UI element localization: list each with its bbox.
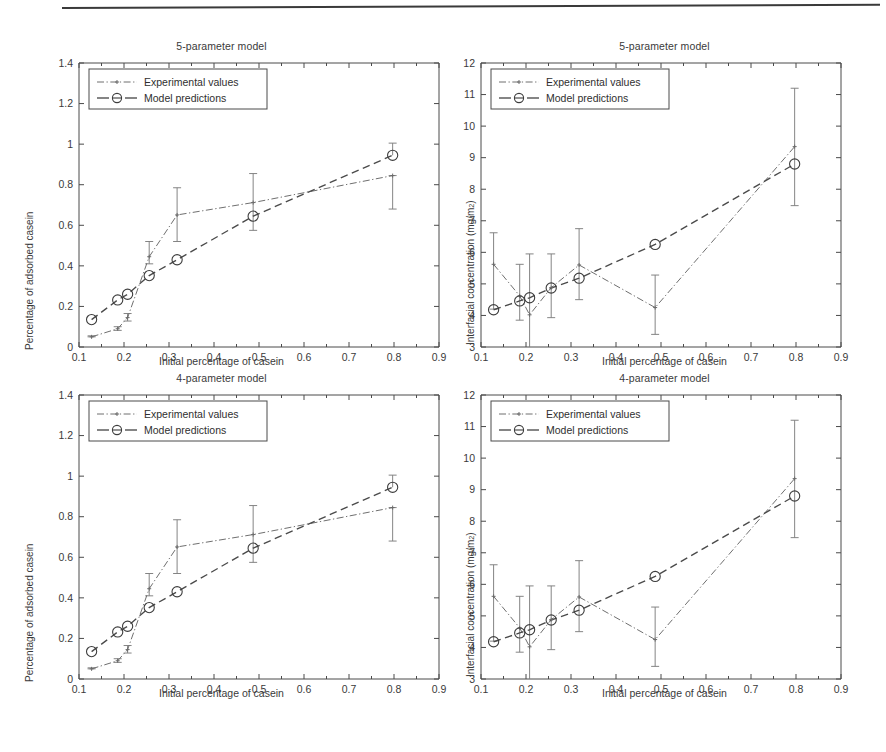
panel-bottom-left: 4-parameter model Percentage of adsorbed…	[0, 372, 443, 708]
y-tick-label: 3	[469, 341, 475, 353]
y-tick-label: 8	[469, 515, 475, 527]
error-bar	[526, 254, 534, 347]
y-tick-label: 6	[469, 246, 475, 258]
y-tick-label: 0	[67, 673, 73, 685]
y-tick-label: 0.6	[58, 219, 73, 231]
plot-area: 0.10.20.30.40.50.60.70.80.93456789101112…	[481, 395, 841, 679]
y-tick-label: 9	[469, 151, 475, 163]
experimental-data-point	[175, 213, 179, 217]
panel-top-left: 5-parameter model Percentage of adsorbed…	[0, 40, 443, 376]
model-data-point	[113, 295, 123, 305]
model-data-point	[123, 289, 133, 299]
y-tick-label: 5	[469, 610, 475, 622]
y-tick-label: 0.8	[58, 178, 73, 190]
legend-label-experimental: Experimental values	[546, 76, 641, 88]
experimental-data-point	[528, 313, 532, 317]
y-tick-label: 6	[469, 578, 475, 590]
panel-top-right: 5-parameter model Interfacial concentrat…	[443, 40, 886, 376]
experimental-data-point	[577, 595, 581, 599]
x-axis-label: Initial percentage of casein	[0, 355, 443, 367]
y-axis-label-text: Percentage of adsorbed casein	[24, 212, 35, 350]
experimental-data-point	[577, 263, 581, 267]
panel-title: 4-parameter model	[443, 372, 886, 384]
legend: Experimental valuesModel predictions	[89, 69, 267, 109]
model-series-line	[92, 155, 393, 319]
experimental-data-point	[175, 545, 179, 549]
y-tick-label: 1.2	[58, 429, 73, 441]
error-bar	[526, 586, 534, 679]
y-axis-label-superscript: 2	[467, 536, 476, 540]
y-axis-label-paren: )	[465, 532, 476, 535]
experimental-data-point	[653, 306, 657, 310]
legend-label-model: Model predictions	[546, 92, 628, 104]
legend-label-model: Model predictions	[144, 424, 226, 436]
y-tick-label: 10	[463, 452, 475, 464]
error-bar	[651, 275, 659, 334]
panel-title: 4-parameter model	[0, 372, 443, 384]
y-tick-label: 5	[469, 278, 475, 290]
x-axis-label: Initial percentage of casein	[443, 687, 886, 699]
error-bar	[389, 176, 397, 209]
y-tick-label: 0.4	[58, 592, 73, 604]
plot-area: 0.10.20.30.40.50.60.70.80.93456789101112…	[481, 63, 841, 347]
y-tick-label: 4	[469, 309, 475, 321]
experimental-series-line	[92, 508, 393, 669]
y-axis-label-superscript: 2	[467, 204, 476, 208]
y-tick-label: 0.2	[58, 300, 73, 312]
y-tick-label: 9	[469, 483, 475, 495]
page-header-rule	[62, 4, 880, 9]
y-tick-label: 1.4	[58, 57, 73, 69]
legend-label-model: Model predictions	[546, 424, 628, 436]
error-bar	[389, 143, 397, 155]
error-bar	[490, 565, 498, 641]
model-data-point	[87, 647, 97, 657]
y-axis-label: Percentage of adsorbed casein	[24, 212, 35, 350]
y-tick-label: 0.2	[58, 632, 73, 644]
model-data-point	[172, 255, 182, 265]
legend-label-model: Model predictions	[144, 92, 226, 104]
experimental-series-line	[494, 147, 795, 315]
model-data-point	[123, 621, 133, 631]
legend-label-experimental: Experimental values	[144, 76, 239, 88]
model-series-line	[92, 487, 393, 651]
y-tick-label: 11	[464, 420, 475, 432]
y-tick-label: 0.4	[58, 260, 73, 272]
experimental-series-line	[494, 479, 795, 647]
legend-label-experimental: Experimental values	[144, 408, 239, 420]
error-bar	[490, 233, 498, 309]
legend: Experimental valuesModel predictions	[491, 401, 669, 441]
legend: Experimental valuesModel predictions	[491, 69, 669, 109]
model-data-point	[113, 627, 123, 637]
y-axis-label: Percentage of adsorbed casein	[24, 544, 35, 682]
model-data-point	[172, 587, 182, 597]
experimental-data-point	[251, 201, 255, 205]
experimental-series-line	[92, 176, 393, 337]
model-series-line	[494, 164, 795, 310]
plot-area: 0.10.20.30.40.50.60.70.80.900.20.40.60.8…	[79, 63, 439, 347]
y-tick-label: 7	[469, 214, 475, 226]
y-tick-label: 11	[464, 88, 475, 100]
y-tick-label: 12	[463, 389, 475, 401]
error-bar	[651, 607, 659, 666]
y-axis-label-text: Interfacial concentration (mg/m	[465, 208, 476, 345]
panel-title: 5-parameter model	[443, 40, 886, 52]
y-tick-label: 8	[469, 183, 475, 195]
panel-bottom-right: 4-parameter model Interfacial concentrat…	[443, 372, 886, 708]
y-tick-label: 1.2	[58, 97, 73, 109]
y-tick-label: 4	[469, 641, 475, 653]
y-tick-label: 0.6	[58, 551, 73, 563]
x-axis-label: Initial percentage of casein	[0, 687, 443, 699]
x-axis-label: Initial percentage of casein	[443, 355, 886, 367]
model-data-point	[87, 315, 97, 325]
y-tick-label: 1.4	[58, 389, 73, 401]
y-axis-label-text: Percentage of adsorbed casein	[24, 544, 35, 682]
y-tick-label: 0.8	[58, 510, 73, 522]
y-tick-label: 0	[67, 341, 73, 353]
y-tick-label: 7	[469, 546, 475, 558]
y-tick-label: 12	[463, 57, 475, 69]
experimental-data-point	[528, 645, 532, 649]
y-axis-label-text: Interfacial concentration (mg/m	[465, 540, 476, 677]
experimental-data-point	[391, 174, 395, 178]
experimental-data-point	[653, 638, 657, 642]
y-tick-label: 1	[67, 138, 73, 150]
